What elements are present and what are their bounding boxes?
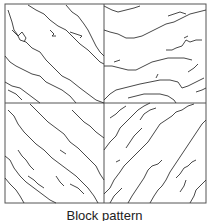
quadrant-bottom-left	[5, 104, 104, 203]
quadrant-top-left	[5, 5, 104, 103]
crack-pattern-diagram	[0, 0, 209, 221]
figure-caption: Block pattern	[0, 209, 209, 221]
quadrant-bottom-right	[104, 103, 206, 203]
quadrant-top-right	[104, 6, 206, 103]
